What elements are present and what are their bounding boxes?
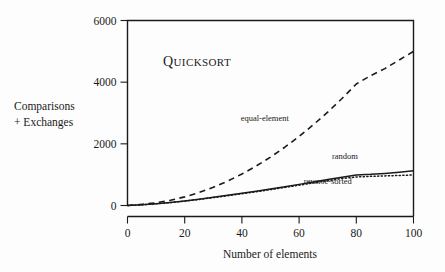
y-tick-label: 0 [111, 200, 117, 212]
series-label-reverse-sorted: reverse-sorted [304, 176, 353, 186]
x-axis-title: Number of elements [223, 248, 317, 260]
chart-canvas: 0200040006000 020406080100 equal-element… [0, 0, 445, 272]
series-annotation-labels: equal-elementrandomreverse-sorted [241, 113, 359, 187]
y-axis-title-line1: Comparisons [14, 100, 75, 113]
x-tick-label: 40 [236, 227, 248, 239]
x-axis-tick-labels: 020406080100 [125, 227, 423, 239]
y-axis-title-line2: + Exchanges [14, 116, 74, 129]
x-tick-label: 0 [125, 227, 131, 239]
y-tick-label: 2000 [94, 138, 117, 150]
y-axis-tick-labels: 0200040006000 [94, 15, 117, 212]
series-label-equal-element: equal-element [241, 113, 290, 123]
series-curve-equal-element [128, 51, 414, 205]
x-axis-tick-group [128, 217, 414, 224]
y-axis-tick-group [121, 21, 128, 206]
y-tick-label: 4000 [94, 76, 117, 88]
y-tick-label: 6000 [94, 15, 117, 27]
quicksort-performance-figure: 0200040006000 020406080100 equal-element… [0, 0, 445, 272]
series-label-random: random [332, 151, 358, 161]
chart-title: QUICKSORT [163, 54, 231, 69]
x-tick-label: 100 [405, 227, 423, 239]
series-curves [128, 51, 414, 205]
x-tick-label: 60 [293, 227, 305, 239]
x-tick-label: 20 [179, 227, 191, 239]
x-tick-label: 80 [351, 227, 363, 239]
